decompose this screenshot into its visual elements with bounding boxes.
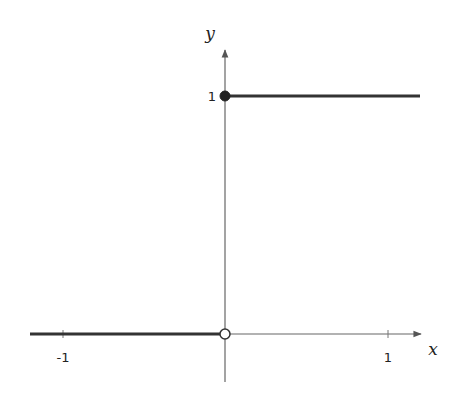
x-tick-label-pos1: 1 — [384, 350, 392, 365]
step-function-chart: -1 1 1 x y — [0, 0, 463, 394]
closed-endpoint-marker — [220, 91, 230, 101]
x-tick-label-neg1: -1 — [57, 350, 70, 365]
x-axis-label: x — [428, 339, 438, 359]
y-tick-label-1: 1 — [208, 89, 216, 104]
open-endpoint-marker — [220, 329, 230, 339]
y-axis-label: y — [204, 23, 215, 43]
